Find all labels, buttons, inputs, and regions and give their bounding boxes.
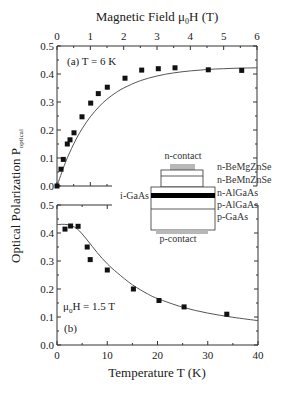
x-tick-label: 5 bbox=[221, 30, 227, 42]
data-point-square bbox=[156, 66, 161, 71]
data-point-square bbox=[76, 224, 81, 229]
data-point-square bbox=[80, 114, 85, 119]
data-point-square bbox=[63, 227, 68, 232]
y-tick-label: 0.5 bbox=[40, 40, 54, 52]
layer-label-2: n-AlGaAs bbox=[217, 187, 258, 198]
data-point-square bbox=[105, 85, 110, 90]
y-tick-label: 0.1 bbox=[40, 152, 54, 164]
data-point-square bbox=[105, 268, 110, 273]
y-tick-label: 0.3 bbox=[40, 255, 54, 267]
y-tick-label: 0.5 bbox=[40, 199, 54, 211]
x-tick-label: 10 bbox=[102, 349, 114, 361]
data-point-square bbox=[72, 130, 77, 135]
data-point-square bbox=[85, 245, 90, 250]
data-point-square bbox=[206, 67, 211, 72]
p-contact-label: p-contact bbox=[159, 233, 196, 244]
i-gaas-active-layer bbox=[151, 193, 215, 198]
x-tick-label: 30 bbox=[202, 349, 214, 361]
data-point-square bbox=[88, 101, 93, 106]
y-axis-title: Optical Polarization Poptical bbox=[8, 129, 25, 263]
layer-label-1: n-BeMnZnSe bbox=[217, 174, 272, 185]
bottom-x-axis-title: Temperature T (K) bbox=[108, 365, 206, 380]
y-tick-label: 0.4 bbox=[40, 227, 54, 239]
y-tick-label: 0.1 bbox=[40, 311, 54, 323]
top-x-axis-title: Magnetic Field μ0H (T) bbox=[96, 9, 219, 26]
device-structure-inset: n-contact p-contact i-GaAs n-BeMgZnSe n-… bbox=[120, 150, 272, 244]
x-tick-label: 20 bbox=[152, 349, 164, 361]
x-tick-label: 3 bbox=[154, 30, 160, 42]
y-tick-label: 0.0 bbox=[40, 339, 54, 351]
n-contact-label: n-contact bbox=[164, 150, 201, 161]
y-tick-label: 0.2 bbox=[40, 283, 54, 295]
y-tick-label: 0.0 bbox=[40, 180, 54, 192]
data-point-square bbox=[68, 137, 73, 142]
panel-b-label: (b) bbox=[64, 322, 77, 335]
data-point-square bbox=[131, 287, 136, 292]
data-point-square bbox=[68, 224, 73, 229]
x-tick-label: 40 bbox=[253, 349, 265, 361]
y-tick-label: 0.4 bbox=[40, 68, 54, 80]
y-tick-label: 0.2 bbox=[40, 124, 54, 136]
data-point-square bbox=[139, 68, 144, 73]
x-tick-label: 4 bbox=[188, 30, 194, 42]
mesa-layer-box bbox=[161, 170, 203, 187]
x-tick-label: 0 bbox=[54, 349, 60, 361]
data-point-square bbox=[88, 257, 93, 262]
panel-b-field-annotation: μ0H = 1.5 T bbox=[63, 300, 115, 315]
data-point-square bbox=[182, 304, 187, 309]
layer-label-0: n-BeMgZnSe bbox=[217, 161, 272, 172]
y-tick-label: 0.3 bbox=[40, 96, 54, 108]
x-tick-label: 6 bbox=[254, 30, 260, 42]
data-point-square bbox=[61, 157, 66, 162]
layer-label-4: p-GaAs bbox=[217, 211, 248, 222]
data-point-square bbox=[123, 76, 128, 81]
data-point-square bbox=[59, 167, 64, 172]
data-point-square bbox=[157, 298, 162, 303]
figure: Magnetic Field μ0H (T) Optical Polarizat… bbox=[0, 0, 283, 394]
panel-a-annotation: (a) T = 6 K bbox=[67, 55, 116, 68]
x-tick-label: 1 bbox=[88, 30, 94, 42]
layer-label-3: p-AlGaAs bbox=[217, 199, 258, 210]
x-tick-label: 0 bbox=[54, 30, 60, 42]
data-point-square bbox=[224, 312, 229, 317]
data-point-square bbox=[239, 68, 244, 73]
i-gaas-label: i-GaAs bbox=[120, 190, 149, 201]
x-tick-label: 2 bbox=[121, 30, 127, 42]
data-point-square bbox=[55, 184, 60, 189]
data-point-square bbox=[173, 65, 178, 70]
data-point-square bbox=[96, 91, 101, 96]
